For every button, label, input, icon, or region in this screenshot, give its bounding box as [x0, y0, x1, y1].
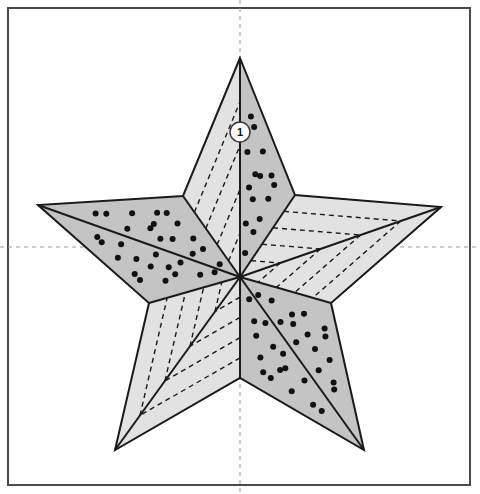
stipple-dot	[282, 365, 288, 371]
stipple-dot	[115, 255, 121, 261]
stipple-dot	[243, 221, 249, 227]
stipple-dot	[277, 367, 283, 373]
stipple-dot	[246, 296, 252, 302]
stipple-dot	[172, 271, 178, 277]
stipple-dot	[148, 264, 154, 270]
stipple-dot	[257, 354, 263, 360]
stipple-dot	[154, 210, 160, 216]
stipple-dot	[157, 236, 163, 242]
stipple-dot	[190, 251, 196, 257]
stipple-dot	[305, 332, 311, 338]
stipple-dot	[331, 380, 337, 386]
stipple-dot	[163, 278, 169, 284]
stipple-dot	[242, 250, 248, 256]
stipple-dot	[312, 346, 318, 352]
stipple-dot	[253, 333, 259, 339]
stipple-dot	[269, 173, 275, 179]
stipple-dot	[190, 236, 196, 242]
stipple-dot	[316, 367, 322, 373]
stipple-dot	[289, 312, 295, 318]
stipple-dot	[322, 325, 328, 331]
stipple-dot	[271, 182, 277, 188]
stipple-dot	[99, 239, 105, 245]
stipple-dot	[251, 318, 257, 324]
stipple-dot	[151, 221, 157, 227]
stipple-dot	[93, 211, 99, 217]
stipple-dot	[293, 339, 299, 345]
stipple-dot	[94, 234, 100, 240]
stipple-dot	[103, 211, 109, 217]
stipple-dot	[322, 334, 328, 340]
stipple-dot	[302, 378, 308, 384]
stipple-dot	[175, 221, 181, 227]
stipple-dot	[133, 256, 139, 262]
stipple-dot	[250, 229, 256, 235]
stipple-dot	[153, 252, 159, 258]
stipple-dot	[268, 375, 274, 381]
callout-marker-1[interactable]: 1	[230, 122, 250, 142]
stipple-dot	[290, 321, 296, 327]
stipple-dot	[280, 351, 286, 357]
stipple-dot	[132, 271, 138, 277]
stipple-dot	[244, 149, 250, 155]
stipple-dot	[166, 264, 172, 270]
stipple-dot	[164, 210, 170, 216]
stipple-dot	[217, 261, 223, 267]
stipple-dot	[255, 292, 261, 298]
stipple-dot	[129, 210, 135, 216]
stipple-dot	[265, 196, 271, 202]
stipple-dot	[197, 272, 203, 278]
stipple-dot	[178, 260, 184, 266]
stipple-dot	[260, 149, 266, 155]
stipple-dot	[270, 344, 276, 350]
stipple-dot	[124, 226, 130, 232]
stipple-dot	[137, 277, 143, 283]
stipple-dot	[248, 113, 254, 119]
stipple-dot	[246, 184, 252, 190]
star-figure-svg: 1	[0, 0, 480, 494]
stipple-dot	[319, 408, 325, 414]
stipple-dot	[212, 269, 218, 275]
stipple-dot	[251, 124, 257, 130]
stipple-dot	[257, 216, 263, 222]
callout-label: 1	[237, 126, 243, 138]
stipple-dot	[331, 387, 337, 393]
stipple-dot	[269, 297, 275, 303]
stipple-dot	[250, 196, 256, 202]
stipple-dot	[260, 369, 266, 375]
stipple-dot	[278, 319, 284, 325]
stipple-dot	[301, 311, 307, 317]
stipple-dot	[118, 241, 124, 247]
stipple-dot	[327, 357, 333, 363]
stipple-dot	[200, 246, 206, 252]
stipple-dot	[262, 320, 268, 326]
stipple-dot	[170, 236, 176, 242]
stipple-dot	[257, 173, 263, 179]
figure-canvas: 1	[0, 0, 480, 494]
stipple-dot	[310, 402, 316, 408]
stipple-dot	[289, 388, 295, 394]
